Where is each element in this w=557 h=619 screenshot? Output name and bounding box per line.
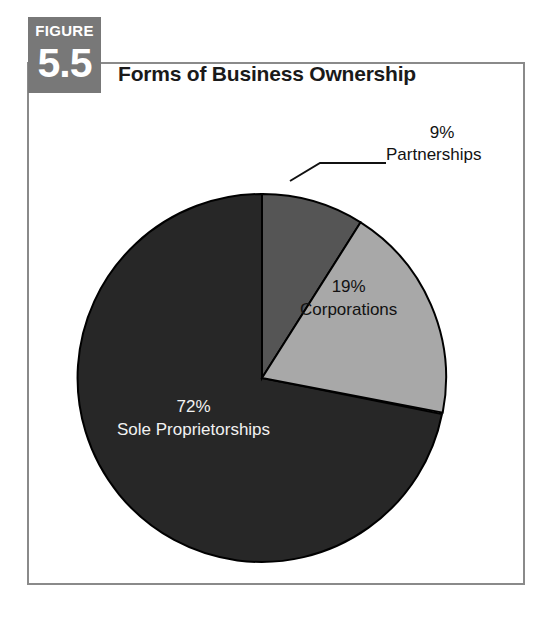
pie-label-corporations-name: Corporations — [300, 298, 397, 321]
figure-page: FIGURE 5.5 Forms of Business Ownership 9… — [0, 0, 557, 619]
pie-label-sole-proprietorships-name: Sole Proprietorships — [117, 418, 270, 441]
pie-label-sole-proprietorships-percent: 72% — [117, 395, 270, 418]
pie-label-corporations: 19% Corporations — [300, 275, 397, 321]
figure-badge-word: FIGURE — [28, 21, 101, 40]
pie-label-corporations-percent: 19% — [300, 275, 397, 298]
figure-number-badge: FIGURE 5.5 — [28, 17, 101, 93]
figure-badge-number: 5.5 — [28, 40, 101, 86]
pie-label-partnerships: 9% Partnerships — [386, 122, 498, 166]
pie-label-partnerships-name: Partnerships — [386, 144, 498, 166]
partnerships-leader-line — [290, 163, 386, 181]
pie-label-sole-proprietorships: 72% Sole Proprietorships — [117, 395, 270, 441]
pie-label-partnerships-percent: 9% — [386, 122, 498, 144]
